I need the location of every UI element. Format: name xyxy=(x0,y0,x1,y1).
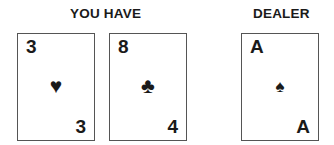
card-rank-top: A xyxy=(250,36,264,58)
card-rank-bottom: A xyxy=(296,116,310,138)
card-rank-top: 8 xyxy=(118,36,129,58)
player-card-2: 8 ♣ 4 xyxy=(109,33,187,141)
dealer-card-1: A ♠ A xyxy=(241,33,319,141)
card-rank-bottom: 4 xyxy=(167,116,178,138)
club-suit-icon: ♣ xyxy=(141,75,155,96)
player-heading: YOU HAVE xyxy=(70,6,141,21)
player-card-1: 3 ♥ 3 xyxy=(17,33,95,141)
card-rank-bottom: 3 xyxy=(75,116,86,138)
card-rank-top: 3 xyxy=(26,36,37,58)
heart-suit-icon: ♥ xyxy=(50,75,62,96)
spade-suit-icon: ♠ xyxy=(275,78,284,95)
dealer-heading: DEALER xyxy=(253,6,310,21)
